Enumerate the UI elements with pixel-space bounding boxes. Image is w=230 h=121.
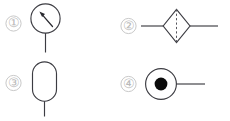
dot-in-circle-icon (146, 69, 205, 100)
symbol-figure: ① ② ③ (0, 0, 230, 121)
label-2: ② (121, 18, 136, 34)
capsule-vessel-body (33, 62, 57, 101)
label-number-3: ③ (8, 75, 20, 90)
label-number-1: ① (8, 15, 20, 30)
symbol-group-2: ② (121, 9, 218, 42)
label-1: ① (6, 15, 21, 31)
label-number-4: ④ (123, 76, 135, 91)
pressure-gauge-icon (31, 4, 60, 53)
label-4: ④ (121, 76, 136, 92)
symbol-group-1: ① (6, 4, 60, 53)
filter-separator-icon (141, 9, 218, 42)
dot-circle-fill (155, 78, 168, 91)
capsule-vessel-icon (33, 62, 57, 117)
symbol-group-3: ③ (6, 62, 57, 117)
label-3: ③ (6, 75, 21, 91)
label-number-2: ② (123, 18, 135, 33)
symbol-group-4: ④ (121, 69, 205, 100)
